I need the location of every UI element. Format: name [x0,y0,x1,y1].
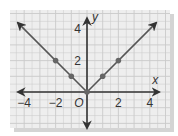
y-tick-label: 4 [74,22,81,36]
data-point [100,74,106,80]
x-tick-label: −4 [17,96,31,110]
origin-label: O [74,96,83,110]
data-point [53,58,59,64]
grid-background [10,10,170,128]
x-tick-label: −2 [49,96,63,110]
data-point [84,89,90,95]
y-tick-label: 2 [74,54,81,68]
y-axis-label: y [91,10,99,24]
x-tick-label: 4 [146,96,153,110]
graph: −4−22424Oxy [0,0,178,136]
data-point [116,58,122,64]
data-point [69,74,75,80]
x-axis-label: x [151,73,159,87]
x-tick-label: 2 [115,96,122,110]
